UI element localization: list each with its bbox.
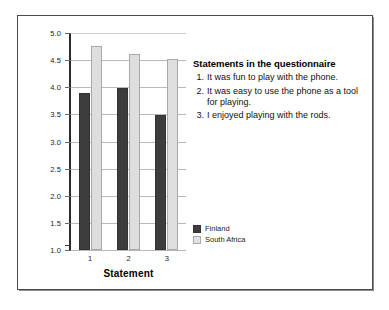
y-tick-label: 4.5 <box>50 56 61 65</box>
bar-chart-plot-area: 5.04.54.03.53.02.52.01.51.0 123 Statemen… <box>40 33 186 261</box>
y-tick-label: 2.0 <box>50 191 61 200</box>
statements-heading: Statements in the questionnaire <box>193 58 368 69</box>
y-tick-label: 1.5 <box>50 218 61 227</box>
x-tick-label: 2 <box>117 254 141 263</box>
y-tick-label: 1.0 <box>50 246 61 255</box>
gridline <box>71 250 186 251</box>
legend-swatch <box>193 225 201 233</box>
statement-item: 2.It was easy to use the phone as a tool… <box>193 86 368 108</box>
bar-finland-1 <box>79 93 90 250</box>
bar-group <box>117 33 140 250</box>
statement-text: It was easy to use the phone as a tool f… <box>207 86 368 108</box>
y-tick-label: 3.0 <box>50 137 61 146</box>
legend-label: Finland <box>205 224 230 233</box>
statement-number: 1. <box>193 72 204 83</box>
bar-group <box>79 33 102 250</box>
legend-item-finland: Finland <box>193 224 245 233</box>
x-tick-label: 1 <box>78 254 102 263</box>
statement-item: 3.I enjoyed playing with the rods. <box>193 110 368 121</box>
bar-south-africa-1 <box>91 46 102 250</box>
y-tick-label: 5.0 <box>50 29 61 38</box>
statement-text: It was fun to play with the phone. <box>207 72 368 83</box>
bars-layer <box>71 33 186 250</box>
y-tick-label: 3.5 <box>50 110 61 119</box>
bar-south-africa-2 <box>129 54 140 250</box>
bar-finland-2 <box>117 88 128 250</box>
y-tick-mark <box>65 250 71 251</box>
figure-frame: 5.04.54.03.53.02.52.01.51.0 123 Statemen… <box>17 15 373 290</box>
y-tick-label: 4.0 <box>50 83 61 92</box>
chart-legend: FinlandSouth Africa <box>193 224 245 246</box>
statement-number: 3. <box>193 110 204 121</box>
bar-south-africa-3 <box>167 59 178 251</box>
legend-item-south-africa: South Africa <box>193 235 245 244</box>
x-tick-label: 3 <box>155 254 179 263</box>
statement-number: 2. <box>193 86 204 108</box>
statements-list: 1.It was fun to play with the phone.2.It… <box>193 72 368 121</box>
statement-item: 1.It was fun to play with the phone. <box>193 72 368 83</box>
legend-swatch <box>193 236 201 244</box>
x-axis-title: Statement <box>71 268 186 279</box>
statement-text: I enjoyed playing with the rods. <box>207 110 368 121</box>
bar-finland-3 <box>155 115 166 250</box>
bar-group <box>155 33 178 250</box>
legend-label: South Africa <box>205 235 245 244</box>
statements-panel: Statements in the questionnaire 1.It was… <box>193 58 368 124</box>
y-tick-label: 2.5 <box>50 164 61 173</box>
